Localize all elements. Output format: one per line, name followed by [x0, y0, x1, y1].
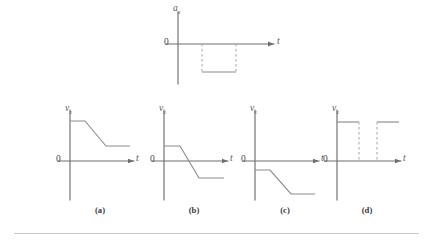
bottom-divider: [14, 233, 419, 234]
option-c-origin-label: 0: [241, 155, 246, 165]
option-c-y-axis-label: vx: [250, 104, 257, 116]
option-b-y-subscript: x: [163, 109, 166, 115]
option-c-y-subscript: x: [254, 109, 257, 115]
option-d-y-subscript: x: [336, 109, 339, 115]
option-b-t-axis-arrowhead: [222, 159, 228, 164]
option-a-y-axis-label: vx: [65, 104, 72, 116]
option-b-caption: (b): [179, 206, 209, 215]
option-d-t-axis-arrowhead: [395, 159, 401, 164]
option-d-y-axis-label: vx: [332, 104, 339, 116]
option-a-caption: (a): [85, 206, 115, 215]
option-b-curve: [164, 146, 224, 178]
acceleration-y-axis-label: ax: [173, 4, 180, 16]
option-b-svg: [142, 104, 238, 204]
option-a-svg: [48, 104, 144, 204]
acceleration-graph-svg: [158, 6, 288, 86]
option-a-x-axis-label: t: [136, 154, 139, 164]
option-a-origin-label: 0: [56, 155, 61, 165]
acceleration-x-axis-label: t: [277, 37, 280, 47]
option-a-t-axis-arrowhead: [128, 159, 134, 164]
option-c-curve: [255, 170, 315, 194]
t-axis-arrowhead: [268, 42, 274, 47]
option-b-y-axis-label: vx: [159, 104, 166, 116]
figure-root: ax 0 t vx 0 t (a) vx 0 t (b): [0, 0, 433, 248]
option-d-svg: [315, 104, 411, 204]
option-a-y-subscript: x: [69, 109, 72, 115]
option-d-x-axis-label: t: [403, 154, 406, 164]
acceleration-origin-label: 0: [164, 38, 169, 48]
option-d-panel[interactable]: vx 0 t (d): [315, 104, 411, 204]
option-b-panel[interactable]: vx 0 t (b): [142, 104, 238, 204]
option-d-origin-label: 0: [323, 155, 328, 165]
acceleration-y-subscript: x: [178, 9, 181, 15]
option-b-origin-label: 0: [150, 155, 155, 165]
option-a-curve: [70, 121, 130, 146]
option-d-caption: (d): [352, 206, 382, 215]
acceleration-graph-panel: ax 0 t: [158, 6, 288, 86]
option-a-panel[interactable]: vx 0 t (a): [48, 104, 144, 204]
option-c-caption: (c): [270, 206, 300, 215]
